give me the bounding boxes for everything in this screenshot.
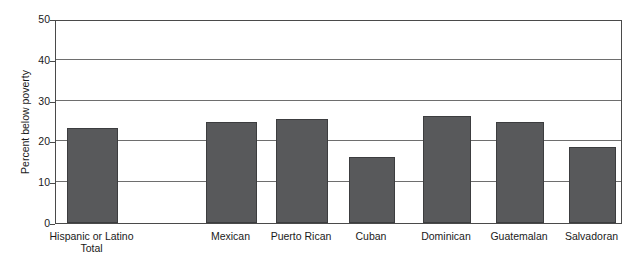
gridline-40 xyxy=(56,59,621,60)
y-axis-title: Percent below poverty xyxy=(18,20,32,224)
y-tick-label-50: 50 xyxy=(10,14,50,25)
plot-area xyxy=(55,20,622,224)
gridline-30 xyxy=(56,100,621,101)
bar xyxy=(67,128,118,223)
y-tick-mark-0 xyxy=(50,224,55,225)
x-tick-label: Salvadoran xyxy=(532,230,635,242)
y-tick-label-30: 30 xyxy=(10,96,50,107)
x-tick-label: Hispanic or Latino Total xyxy=(32,230,152,254)
bar xyxy=(569,147,616,223)
bar-chart: Percent below poverty 01020304050 Hispan… xyxy=(0,0,635,265)
bar xyxy=(206,122,257,223)
y-tick-label-10: 10 xyxy=(10,177,50,188)
bar xyxy=(349,157,395,223)
y-tick-label-0: 0 xyxy=(10,218,50,229)
bar xyxy=(276,119,328,223)
bar xyxy=(423,116,471,223)
y-tick-label-40: 40 xyxy=(10,55,50,66)
y-tick-label-20: 20 xyxy=(10,136,50,147)
bar xyxy=(496,122,544,223)
